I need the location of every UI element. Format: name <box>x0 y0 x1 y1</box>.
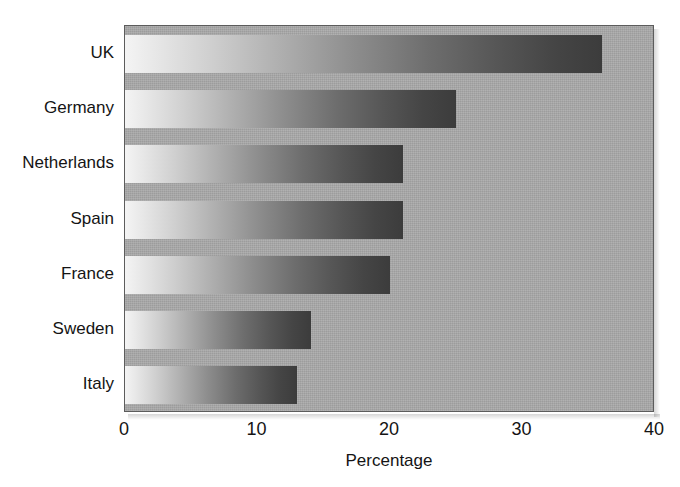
plot-area <box>124 25 654 412</box>
x-tick-30: 30 <box>492 420 552 438</box>
bar-germany <box>125 90 456 128</box>
x-tick-10: 10 <box>227 420 287 438</box>
x-tick-0: 0 <box>94 420 154 438</box>
bar-spain <box>125 201 403 239</box>
x-axis-title: Percentage <box>124 452 654 469</box>
plot-shadow-right <box>654 29 660 417</box>
x-tick-40: 40 <box>624 420 680 438</box>
bar-chart: UKGermanyNetherlandsSpainFranceSwedenIta… <box>0 0 680 487</box>
category-label-italy: Italy <box>0 375 114 392</box>
category-label-spain: Spain <box>0 210 114 227</box>
category-label-netherlands: Netherlands <box>0 154 114 171</box>
category-label-germany: Germany <box>0 99 114 116</box>
x-tick-20: 20 <box>359 420 419 438</box>
category-label-uk: UK <box>0 44 114 61</box>
bar-sweden <box>125 311 311 349</box>
category-label-sweden: Sweden <box>0 320 114 337</box>
bar-france <box>125 256 390 294</box>
bar-italy <box>125 366 297 404</box>
bar-uk <box>125 35 602 73</box>
bar-netherlands <box>125 145 403 183</box>
category-label-france: France <box>0 265 114 282</box>
